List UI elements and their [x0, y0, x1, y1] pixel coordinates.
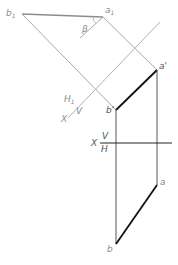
label-beta: β [81, 24, 88, 34]
label-x: X [90, 138, 98, 148]
label-a1: a1 [105, 5, 114, 16]
front-projection-aprime-bprime [116, 70, 157, 110]
label-a: a [160, 177, 166, 187]
label-x1: X [60, 114, 68, 124]
label-h1: H1 [64, 94, 75, 105]
beta-angle-arc [93, 17, 96, 24]
true-length-line-b1-a1 [22, 14, 103, 17]
label-v: V [102, 131, 109, 141]
label-b1: b1 [6, 8, 16, 19]
auxiliary-projection-diagram: b1 a1 β H1 X V a' b' X V H a b [0, 0, 178, 265]
label-b-prime: b' [106, 105, 114, 115]
top-projection-a-b [116, 185, 157, 244]
projector-a1-aprime [103, 17, 157, 70]
label-a-prime: a' [159, 61, 167, 71]
label-h: H [101, 144, 108, 154]
label-v1: V [76, 106, 83, 116]
label-b: b [107, 244, 113, 254]
